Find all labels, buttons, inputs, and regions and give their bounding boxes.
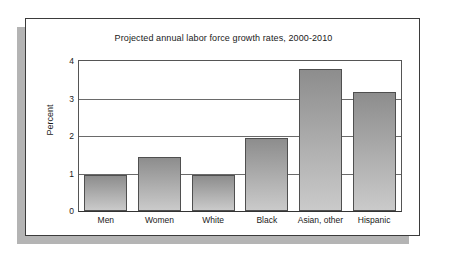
y-axis-title: Percent xyxy=(45,90,55,150)
chart-panel: Projected annual labor force growth rate… xyxy=(25,18,420,236)
x-tick-label: Asian, other xyxy=(294,215,348,225)
chart-title: Projected annual labor force growth rate… xyxy=(26,33,421,43)
y-tick-label: 4 xyxy=(69,56,74,66)
bar xyxy=(353,92,396,211)
y-tick-label: 3 xyxy=(69,94,74,104)
plot-area: 01234 MenWomenWhiteBlackAsian, otherHisp… xyxy=(78,60,402,212)
x-tick-label: Men xyxy=(79,215,133,225)
x-tick-label: Black xyxy=(240,215,294,225)
bar xyxy=(138,157,181,211)
bar xyxy=(245,138,288,211)
bar-group: Black xyxy=(240,61,294,211)
x-tick-label: Hispanic xyxy=(347,215,401,225)
bar xyxy=(299,69,342,212)
y-tick-label: 1 xyxy=(69,169,74,179)
figure-root: Projected annual labor force growth rate… xyxy=(0,0,455,272)
bar-group: Hispanic xyxy=(347,61,401,211)
bar-group: White xyxy=(186,61,240,211)
bars-layer: MenWomenWhiteBlackAsian, otherHispanic xyxy=(79,61,401,211)
bar-group: Asian, other xyxy=(294,61,348,211)
bar xyxy=(192,175,235,211)
x-tick-label: Women xyxy=(133,215,187,225)
x-tick-label: White xyxy=(186,215,240,225)
bar-group: Women xyxy=(133,61,187,211)
bar-group: Men xyxy=(79,61,133,211)
bar xyxy=(84,175,127,211)
y-tick-label: 2 xyxy=(69,131,74,141)
y-tick-label: 0 xyxy=(69,206,74,216)
